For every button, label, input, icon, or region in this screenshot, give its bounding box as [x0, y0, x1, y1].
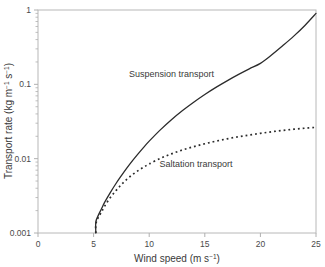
series-curve-saltation-transport: [96, 127, 316, 233]
plot-area-frame: [38, 10, 316, 233]
x-tick-label: 0: [36, 239, 41, 249]
x-axis-tick-labels: 0510152025: [36, 239, 321, 249]
series-curve-suspension-transport: [96, 13, 316, 233]
x-tick-label: 15: [200, 239, 210, 249]
series-label-saltation-transport: Saltation transport: [159, 159, 233, 169]
transport-rate-vs-wind-speed-chart: 0510152025 0.0010.010.11 Wind speed (m s…: [0, 0, 325, 267]
x-tick-label: 5: [91, 239, 96, 249]
data-series-group: [96, 13, 316, 233]
y-tick-label: 0.1: [19, 79, 31, 89]
y-axis-ticks: [34, 10, 38, 233]
x-axis-title: Wind speed (m s−1): [134, 253, 220, 265]
x-tick-label: 25: [311, 239, 321, 249]
y-tick-label: 0.001: [10, 228, 32, 238]
y-axis-title: Transport rate (kg m−1 s−1): [3, 63, 15, 179]
y-tick-label: 0.01: [14, 154, 31, 164]
x-tick-label: 20: [256, 239, 266, 249]
x-tick-label: 10: [144, 239, 154, 249]
y-tick-label: 1: [26, 5, 31, 15]
chart-figure: 0510152025 0.0010.010.11 Wind speed (m s…: [0, 0, 325, 267]
series-label-suspension-transport: Suspension transport: [129, 69, 215, 79]
x-axis-ticks: [38, 233, 316, 237]
series-annotations: Suspension transportSaltation transport: [129, 69, 233, 169]
